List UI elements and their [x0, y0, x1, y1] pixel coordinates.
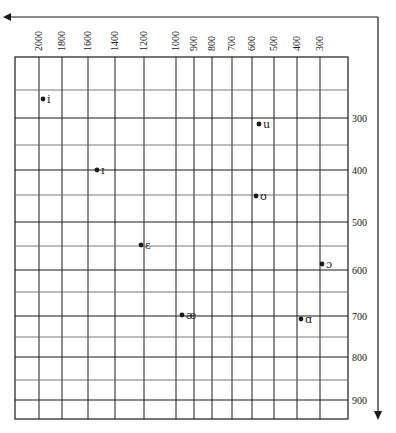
x-tick-label: 700	[226, 36, 237, 51]
vowel-point: ɛ	[139, 239, 151, 252]
vowel-point: ɔ	[320, 258, 333, 271]
x-tick-label: 1600	[82, 31, 93, 51]
x-tick-labels: 2000180016001400120010009008007006005004…	[33, 31, 325, 51]
dot-icon	[257, 122, 262, 127]
vowel-point: æ	[180, 309, 197, 322]
y-tick-label: 700	[352, 311, 367, 322]
vowel-label: ɛ	[145, 239, 151, 252]
x-tick-label: 300	[314, 36, 325, 51]
x-tick-label: 1400	[109, 31, 120, 51]
x-tick-label: 400	[291, 36, 302, 51]
dot-icon	[41, 97, 46, 102]
y-tick-label: 600	[352, 265, 367, 276]
vowel-point: u	[257, 118, 270, 131]
grid	[15, 57, 348, 419]
vowel-label: æ	[186, 309, 196, 322]
vowel-label: ɔ	[326, 258, 332, 271]
dot-icon	[180, 313, 185, 318]
vowel-label: ɪ	[101, 164, 105, 177]
vowel-label: ʊ	[260, 190, 267, 203]
dot-icon	[95, 168, 100, 173]
x-tick-label: 900	[188, 36, 199, 51]
y-tick-label: 500	[352, 217, 367, 228]
x-tick-label: 500	[268, 36, 279, 51]
x-tick-label: 1200	[138, 31, 149, 51]
y-axis-arrow	[374, 17, 382, 420]
vowel-point: i	[41, 93, 51, 106]
dot-icon	[299, 317, 304, 322]
vowel-points: iɪɛæuʊɑɔ	[41, 93, 333, 326]
vowel-label: ɑ	[305, 313, 312, 326]
arrow-down-icon	[374, 411, 382, 420]
y-tick-labels: 300400500600700800900	[352, 113, 367, 406]
x-tick-label: 800	[206, 36, 217, 51]
x-axis-arrow	[3, 13, 378, 21]
vowel-point: ɑ	[299, 313, 312, 326]
x-tick-label: 600	[246, 36, 257, 51]
vowel-label: i	[47, 93, 51, 106]
vowel-point: ʊ	[254, 190, 267, 203]
arrow-left-icon	[3, 13, 11, 21]
x-tick-label: 1000	[170, 31, 181, 51]
dot-icon	[254, 194, 259, 199]
x-tick-label: 2000	[33, 31, 44, 51]
x-tick-label: 1800	[56, 31, 67, 51]
dot-icon	[139, 243, 144, 248]
plot-frame	[15, 57, 348, 419]
y-tick-label: 900	[352, 395, 367, 406]
vowel-label: u	[263, 118, 270, 131]
y-tick-label: 300	[352, 113, 367, 124]
y-tick-label: 800	[352, 352, 367, 363]
vowel-formant-chart: 2000180016001400120010009008007006005004…	[0, 0, 396, 433]
y-tick-label: 400	[352, 165, 367, 176]
dot-icon	[320, 262, 325, 267]
